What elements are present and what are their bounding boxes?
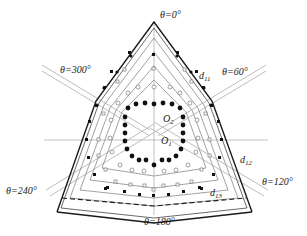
angle-label-60: θ=60° — [222, 66, 248, 77]
center-label-o1: O1 — [161, 135, 172, 148]
angle-label-300: θ=300° — [60, 64, 91, 75]
angle-label-240: θ=240° — [6, 185, 37, 196]
dimension-label-d12: d12 — [240, 154, 253, 167]
axes — [44, 22, 268, 215]
radial-guide-lines — [42, 65, 268, 196]
angle-label-0: θ=0° — [160, 9, 181, 20]
hexagonal-layout-diagram: θ=0° θ=60° θ=120° θ=180° θ=240° θ=300° d… — [0, 0, 307, 236]
angle-label-180: θ=180° — [144, 216, 175, 227]
angle-labels: θ=0° θ=60° θ=120° θ=180° θ=240° θ=300° — [6, 9, 293, 227]
dimension-label-d13: d13 — [210, 187, 223, 200]
dimension-label-d11: d11 — [199, 70, 210, 83]
angle-label-120: θ=120° — [262, 176, 293, 187]
